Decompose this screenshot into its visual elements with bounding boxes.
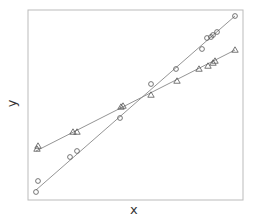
series-layer: [34, 14, 239, 195]
fit-line-triangles: [36, 50, 235, 151]
series-triangles: [34, 47, 238, 151]
circle-marker: [149, 82, 154, 87]
plot-frame: [28, 10, 243, 200]
circle-marker: [34, 190, 39, 195]
circle-marker: [75, 149, 80, 154]
scatter-chart: [0, 0, 255, 224]
fit-line-circles: [36, 16, 235, 190]
series-circles: [34, 14, 238, 195]
circle-marker: [200, 47, 205, 52]
x-axis-label: x: [130, 202, 138, 217]
y-axis-label: y: [4, 100, 19, 108]
circle-marker: [68, 155, 73, 160]
circle-marker: [36, 179, 41, 184]
